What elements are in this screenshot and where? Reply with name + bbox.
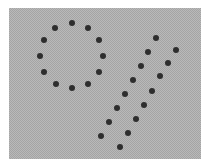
circle-dot [41, 69, 47, 75]
v-left-arm-dot [98, 133, 104, 139]
dot-pattern-field [9, 8, 201, 159]
v-right-arm-dot [125, 130, 131, 136]
v-left-arm-dot [114, 105, 120, 111]
v-right-arm-dot [173, 47, 179, 53]
v-bottom-dot [117, 144, 123, 150]
v-left-arm-dot [153, 35, 159, 41]
v-left-arm-dot [145, 49, 151, 55]
circle-dot [41, 37, 47, 43]
v-left-arm-dot [106, 119, 112, 125]
circle-dot [53, 81, 59, 87]
circle-dot [96, 37, 102, 43]
v-right-arm-dot [141, 102, 147, 108]
circle-dot [52, 25, 58, 31]
circle-dot [85, 81, 91, 87]
v-right-arm-dot [149, 88, 155, 94]
v-right-arm-dot [157, 73, 163, 79]
circle-dot [69, 85, 75, 91]
v-right-arm-dot [133, 116, 139, 122]
circle-dot [69, 20, 75, 26]
v-left-arm-dot [130, 77, 136, 83]
circle-dot [96, 69, 102, 75]
v-right-arm-dot [165, 60, 171, 66]
v-left-arm-dot [138, 63, 144, 69]
circle-dot [85, 25, 91, 31]
circle-dot [100, 53, 106, 59]
v-left-arm-dot [122, 91, 128, 97]
circle-dot [37, 53, 43, 59]
